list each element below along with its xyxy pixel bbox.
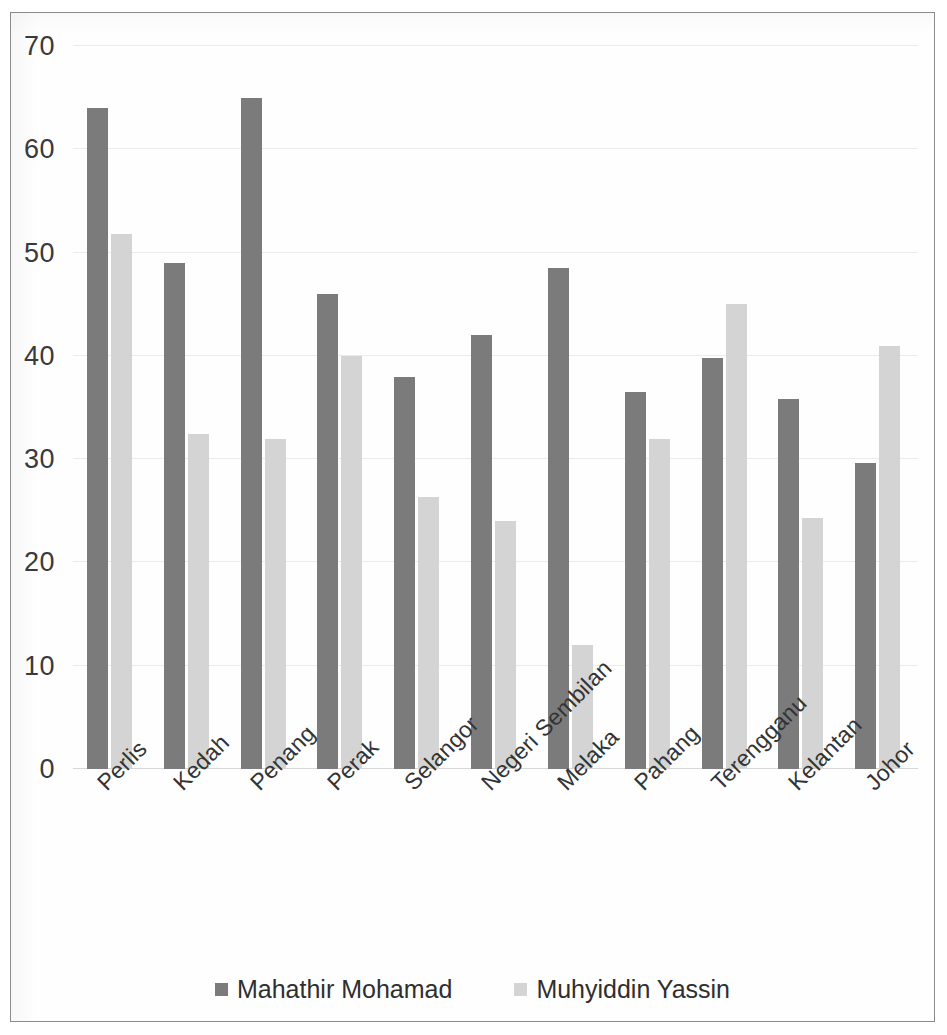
chart-legend: Mahathir MohamadMuhyiddin Yassin [11,975,934,1004]
bar [726,304,747,769]
legend-swatch-icon [514,983,527,996]
bar [471,335,492,769]
bar [394,377,415,769]
chart-frame: 010203040506070 PerlisKedahPenangPerakSe… [10,12,935,1022]
legend-label: Muhyiddin Yassin [536,975,730,1004]
bar [87,108,108,769]
y-axis-tick-label: 50 [24,237,55,268]
legend-item[interactable]: Muhyiddin Yassin [514,975,730,1004]
plot-area: 010203040506070 [73,46,918,769]
legend-label: Mahathir Mohamad [237,975,452,1004]
bar [188,434,209,769]
bar [702,358,723,769]
gridline [73,355,918,356]
y-axis-tick-label: 10 [24,650,55,681]
bar [649,439,670,770]
bar [164,263,185,769]
gridline [73,45,918,46]
y-axis-tick-label: 70 [24,31,55,62]
y-axis-tick-label: 0 [39,754,55,785]
bar [625,392,646,769]
bar [802,518,823,769]
y-axis-tick-label: 20 [24,547,55,578]
bar [341,356,362,769]
bar [879,346,900,769]
bar [241,98,262,769]
legend-item[interactable]: Mahathir Mohamad [215,975,452,1004]
gridline [73,252,918,253]
y-axis-tick-label: 60 [24,134,55,165]
bar [495,521,516,769]
bar [418,497,439,769]
bar [317,294,338,769]
bar [111,234,132,769]
legend-swatch-icon [215,983,228,996]
bar [265,439,286,770]
y-axis-tick-label: 30 [24,444,55,475]
gridline [73,148,918,149]
y-axis-tick-label: 40 [24,340,55,371]
